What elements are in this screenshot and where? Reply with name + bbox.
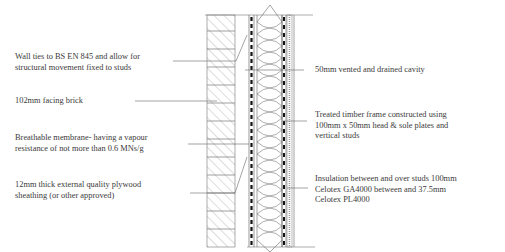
label-cavity: 50mm vented and drained cavity (315, 65, 425, 76)
label-insulation: Insulation between and over studs 100mm … (315, 174, 457, 206)
brick-leaf (207, 15, 235, 247)
label-wall-ties: Wall ties to BS EN 845 and allow for str… (15, 52, 140, 73)
label-breathable-membrane: Breathable membrane- having a vapour res… (15, 133, 148, 154)
label-facing-brick: 102mm facing brick (15, 96, 83, 107)
label-plywood-sheathing: 12mm thick external quality plywood shea… (15, 180, 141, 201)
label-timber-frame: Treated timber frame constructed using 1… (315, 110, 448, 142)
insulation (257, 5, 282, 252)
sheathing-membrane (249, 15, 254, 247)
inner-layer (282, 15, 294, 247)
